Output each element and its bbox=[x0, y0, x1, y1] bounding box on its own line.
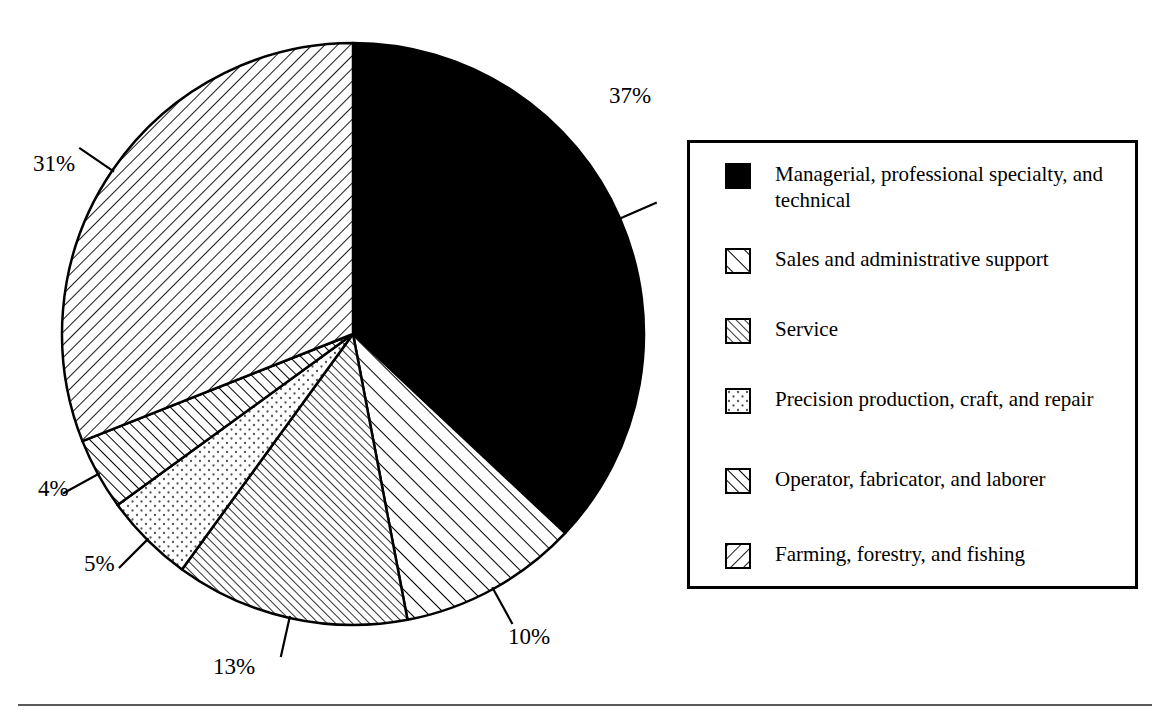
pie-slices bbox=[62, 43, 644, 625]
leader-line bbox=[119, 538, 149, 568]
leader-line bbox=[79, 148, 114, 172]
slice-percentage-label: 13% bbox=[213, 655, 255, 678]
slice-percentage-label: 37% bbox=[609, 84, 651, 107]
legend-swatch-icon bbox=[725, 248, 751, 274]
legend-item[interactable]: Service bbox=[725, 316, 838, 344]
pie-chart-figure: 37%10%13%5%4%31% Managerial, professiona… bbox=[0, 0, 1170, 715]
legend-item[interactable]: Precision production, craft, and repair bbox=[725, 386, 1093, 414]
legend-item[interactable]: Operator, fabricator, and laborer bbox=[725, 466, 1046, 494]
leader-line bbox=[492, 587, 512, 624]
slice-percentage-label: 10% bbox=[508, 625, 550, 648]
slice-percentage-label: 31% bbox=[33, 152, 75, 175]
legend: Managerial, professional specialty, and … bbox=[687, 140, 1138, 589]
footer-rule bbox=[18, 704, 1152, 706]
leader-line bbox=[618, 203, 657, 220]
legend-swatch-icon bbox=[725, 318, 751, 344]
legend-item[interactable]: Farming, forestry, and fishing bbox=[725, 541, 1025, 569]
legend-item-label: Operator, fabricator, and laborer bbox=[775, 466, 1046, 492]
legend-item[interactable]: Managerial, professional specialty, and … bbox=[725, 161, 1105, 213]
legend-swatch-icon bbox=[725, 543, 751, 569]
slice-percentage-label: 5% bbox=[84, 552, 115, 575]
legend-item-label: Service bbox=[775, 316, 838, 342]
slice-percentage-label: 4% bbox=[38, 477, 69, 500]
legend-item-label: Precision production, craft, and repair bbox=[775, 386, 1093, 412]
legend-item[interactable]: Sales and administrative support bbox=[725, 246, 1049, 274]
legend-item-label: Farming, forestry, and fishing bbox=[775, 541, 1025, 567]
legend-swatch-icon bbox=[725, 163, 751, 189]
legend-swatch-icon bbox=[725, 388, 751, 414]
legend-swatch-icon bbox=[725, 468, 751, 494]
legend-item-label: Managerial, professional specialty, and … bbox=[775, 161, 1105, 213]
legend-item-label: Sales and administrative support bbox=[775, 246, 1049, 272]
leader-line bbox=[281, 616, 290, 657]
